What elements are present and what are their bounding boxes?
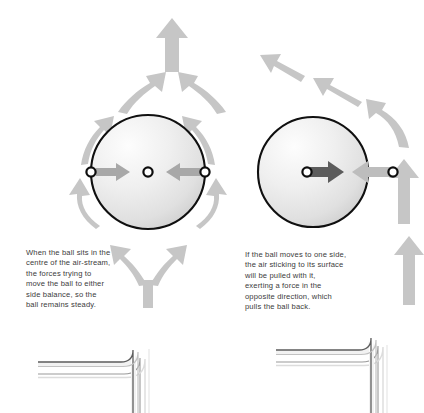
right-panel-caption: If the ball moves to one side, the air s… [245,250,375,312]
airflow-diagram [0,0,424,413]
right-panel-reference-dot [388,167,397,176]
left-panel-caption: When the ball sits in the centre of the … [26,248,146,310]
left-panel-right-dot [200,167,209,176]
left-panel-left-dot [86,167,95,176]
left-panel-centre-dot [143,167,152,176]
right-panel-centre-dot [302,167,311,176]
